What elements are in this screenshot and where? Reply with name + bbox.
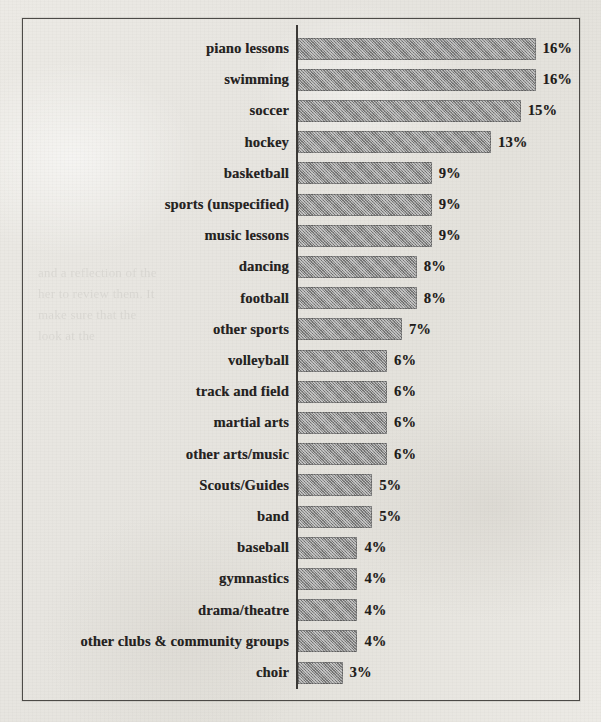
bar-value-label: 8% — [424, 258, 446, 275]
bar — [298, 162, 432, 184]
chart-frame: piano lessons16%swimming16%soccer15%hock… — [22, 18, 580, 701]
bar — [298, 69, 536, 91]
bar-value-label: 15% — [528, 102, 557, 119]
bar — [298, 630, 357, 652]
bar-value-label: 4% — [364, 602, 386, 619]
bar — [298, 318, 402, 340]
bar — [298, 599, 357, 621]
bar-and-value: 15% — [298, 100, 557, 122]
bar-and-value: 8% — [298, 287, 446, 309]
bar-category-label: other sports — [213, 321, 289, 338]
bar-and-value: 6% — [298, 350, 416, 372]
bar-row: other sports7% — [23, 314, 581, 345]
bar-category-label: martial arts — [214, 414, 289, 431]
bar — [298, 225, 432, 247]
bar-and-value: 16% — [298, 69, 572, 91]
bar — [298, 256, 417, 278]
bar — [298, 100, 521, 122]
bar-and-value: 3% — [298, 662, 372, 684]
bar-row: baseball4% — [23, 532, 581, 563]
bar-row: martial arts6% — [23, 407, 581, 438]
bar — [298, 287, 417, 309]
bar — [298, 537, 357, 559]
bar-and-value: 13% — [298, 131, 527, 153]
bar-row: dancing8% — [23, 251, 581, 282]
bar-value-label: 16% — [543, 71, 572, 88]
bar-row: piano lessons16% — [23, 33, 581, 64]
bar-category-label: baseball — [237, 539, 289, 556]
bar-value-label: 6% — [394, 352, 416, 369]
bar-row: band5% — [23, 501, 581, 532]
bar-and-value: 9% — [298, 225, 461, 247]
bar-value-label: 9% — [439, 196, 461, 213]
bar-category-label: drama/theatre — [198, 602, 289, 619]
bar-row: soccer15% — [23, 95, 581, 126]
bar-chart-plot: piano lessons16%swimming16%soccer15%hock… — [23, 19, 581, 702]
bar-category-label: piano lessons — [206, 40, 289, 57]
bar-and-value: 5% — [298, 474, 401, 496]
bar-category-label: music lessons — [204, 227, 289, 244]
bar-and-value: 4% — [298, 630, 386, 652]
bar — [298, 443, 387, 465]
bar-category-label: swimming — [224, 71, 289, 88]
bar-value-label: 8% — [424, 290, 446, 307]
bar-and-value: 6% — [298, 443, 416, 465]
bar — [298, 568, 357, 590]
bar-value-label: 4% — [364, 539, 386, 556]
bar-row: other arts/music6% — [23, 439, 581, 470]
bar-value-label: 16% — [543, 40, 572, 57]
bar-value-label: 7% — [409, 321, 431, 338]
bar-value-label: 3% — [350, 664, 372, 681]
bar-and-value: 7% — [298, 318, 431, 340]
bar — [298, 131, 491, 153]
bar-category-label: volleyball — [228, 352, 289, 369]
bar-category-label: gymnastics — [219, 570, 289, 587]
bar-category-label: basketball — [224, 165, 289, 182]
bar-row: Scouts/Guides5% — [23, 470, 581, 501]
bar — [298, 412, 387, 434]
bar — [298, 662, 343, 684]
bar-row: hockey13% — [23, 127, 581, 158]
bar — [298, 38, 536, 60]
bar-category-label: hockey — [245, 134, 289, 151]
bar-category-label: other clubs & community groups — [80, 633, 289, 650]
bar-row: sports (unspecified)9% — [23, 189, 581, 220]
bar-category-label: Scouts/Guides — [199, 477, 289, 494]
category-axis-line — [296, 25, 298, 689]
bar — [298, 350, 387, 372]
bar-value-label: 6% — [394, 446, 416, 463]
bar-value-label: 4% — [364, 633, 386, 650]
bar-row: drama/theatre4% — [23, 595, 581, 626]
bar-and-value: 4% — [298, 568, 386, 590]
bar-and-value: 6% — [298, 412, 416, 434]
bar-category-label: soccer — [249, 102, 289, 119]
bar-and-value: 8% — [298, 256, 446, 278]
bar — [298, 381, 387, 403]
bar-value-label: 5% — [379, 477, 401, 494]
bar-row: volleyball6% — [23, 345, 581, 376]
bar-row: football8% — [23, 283, 581, 314]
bar-and-value: 9% — [298, 162, 461, 184]
bar-row: track and field6% — [23, 376, 581, 407]
bar-and-value: 16% — [298, 38, 572, 60]
bar-value-label: 9% — [439, 227, 461, 244]
bar-category-label: track and field — [196, 383, 289, 400]
bar-category-label: football — [240, 290, 289, 307]
bar-value-label: 6% — [394, 383, 416, 400]
bar-row: music lessons9% — [23, 220, 581, 251]
bar-row: other clubs & community groups4% — [23, 626, 581, 657]
bar-row: gymnastics4% — [23, 563, 581, 594]
bar-value-label: 5% — [379, 508, 401, 525]
bar-and-value: 9% — [298, 194, 461, 216]
bar-and-value: 4% — [298, 599, 386, 621]
bar-row: basketball9% — [23, 158, 581, 189]
bar-and-value: 4% — [298, 537, 386, 559]
bar-category-label: sports (unspecified) — [165, 196, 289, 213]
bar-row: choir3% — [23, 657, 581, 688]
bar — [298, 194, 432, 216]
bar-category-label: dancing — [239, 258, 289, 275]
bar-value-label: 6% — [394, 414, 416, 431]
bar-category-label: band — [257, 508, 289, 525]
bar — [298, 506, 372, 528]
bar-row: swimming16% — [23, 64, 581, 95]
